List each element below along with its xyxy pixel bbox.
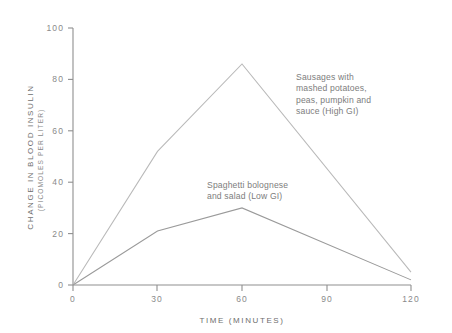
x-tick-label-90: 90 [321, 294, 333, 304]
y-tick-label-20: 20 [52, 229, 64, 239]
x-tick-label-0: 0 [70, 294, 76, 304]
y-axis-tick-labels: 0 20 40 60 80 100 [47, 23, 64, 290]
x-tick-label-120: 120 [402, 294, 419, 304]
series-line-low-gi [73, 208, 411, 285]
x-axis-ticks [73, 285, 411, 291]
y-tick-label-80: 80 [52, 74, 64, 84]
x-tick-label-30: 30 [151, 294, 163, 304]
y-tick-label-100: 100 [47, 23, 64, 33]
y-tick-label-0: 0 [58, 280, 64, 290]
annotation-low-gi: Spaghetti bolognese and salad (Low GI) [207, 180, 329, 203]
chart-plot-area: 0 20 40 60 80 100 0 30 60 90 120 TIME (M… [0, 0, 452, 333]
y-axis-subtitle: (PICOMOLES PER LITER) [37, 109, 45, 212]
x-axis-title: TIME (MINUTES) [199, 316, 284, 325]
annotation-high-gi: Sausages with mashed potatoes, peas, pum… [296, 72, 414, 118]
x-axis-tick-labels: 0 30 60 90 120 [70, 294, 420, 304]
y-tick-label-40: 40 [52, 177, 64, 187]
insulin-response-chart: 0 20 40 60 80 100 0 30 60 90 120 TIME (M… [0, 0, 452, 333]
y-axis-ticks [68, 28, 73, 285]
x-tick-label-60: 60 [236, 294, 248, 304]
y-axis-title: CHANGE IN BLOOD INSULIN [26, 84, 35, 229]
y-tick-label-60: 60 [52, 126, 64, 136]
